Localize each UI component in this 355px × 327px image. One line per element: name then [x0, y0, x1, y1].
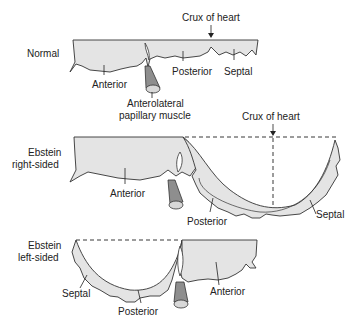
panel-title-right-line2: right-sided — [12, 159, 59, 170]
leaflet-label-septal-left: Septal — [62, 288, 90, 299]
leaflet-label-anterior-normal: Anterior — [92, 79, 128, 90]
leaflet-label-posterior-right: Posterior — [187, 216, 228, 227]
crux-label-normal: Crux of heart — [182, 12, 240, 23]
panel-ebstein-right: Ebstein right-sided Crux of heart Anteri… — [12, 111, 344, 227]
panel-title-right-line1: Ebstein — [28, 147, 61, 158]
ebstein-anomaly-diagram: Normal Crux of heart Anterior Posterior … — [0, 0, 355, 327]
papillary-label-line2: papillary muscle — [119, 110, 191, 121]
panel-title-normal: Normal — [27, 48, 59, 59]
leaflet-label-septal-right: Septal — [316, 209, 344, 220]
papillary-tip-right — [169, 201, 183, 209]
papillary-label-line1: Anterolateral — [127, 98, 184, 109]
leaflet-label-anterior-left: Anterior — [210, 286, 246, 297]
papillary-tip-left — [174, 300, 188, 308]
panel-title-left-line2: left-sided — [18, 252, 59, 263]
papillary-muscle-left — [174, 282, 188, 302]
leaflet-label-posterior-normal: Posterior — [172, 66, 213, 77]
crux-label-right: Crux of heart — [242, 111, 300, 122]
displaced-leaflets-right — [183, 137, 340, 218]
panel-ebstein-left: Ebstein left-sided Septal Posterior Ante… — [18, 240, 257, 317]
leaflet-label-anterior-right: Anterior — [110, 188, 146, 199]
arrow-head-icon — [208, 33, 214, 38]
papillary-tip-normal — [146, 85, 160, 93]
leaflet-label-septal-normal: Septal — [224, 66, 252, 77]
anterior-leaflet-left — [180, 240, 257, 282]
panel-normal: Normal Crux of heart Anterior Posterior … — [27, 12, 258, 121]
papillary-muscle-right — [168, 180, 183, 204]
leaflet-label-posterior-left: Posterior — [118, 306, 159, 317]
panel-title-left-line1: Ebstein — [28, 240, 61, 251]
arrow-head-icon — [270, 131, 276, 136]
